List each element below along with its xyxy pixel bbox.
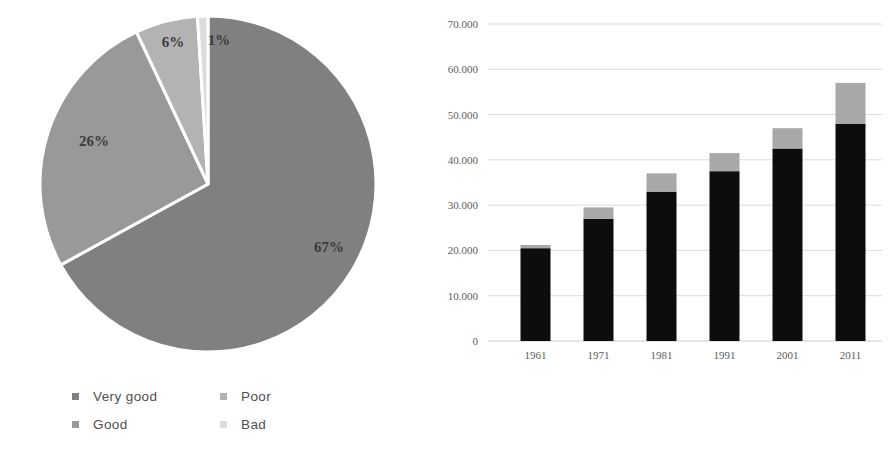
x-tick-label: 2011 (840, 349, 862, 361)
bar-segment-empty[interactable] (836, 124, 866, 341)
x-tick-label: 1971 (588, 349, 610, 361)
y-tick-label: 30.000 (448, 199, 479, 211)
bar-segment-empty[interactable] (710, 171, 740, 341)
bar-series-group (521, 83, 866, 341)
pie-legend: Very good Poor Good Bad (72, 390, 368, 431)
legend-label-poor: Poor (241, 390, 271, 404)
bar-segment-occupied[interactable] (773, 128, 803, 148)
legend-label-bad: Bad (241, 418, 266, 432)
bar-segment-occupied[interactable] (521, 245, 551, 248)
legend-item-very-good[interactable]: Very good (72, 390, 220, 404)
bar-x-axis-ticks: 196119711981199120012011 (525, 349, 862, 361)
pie-label-poor: 6% (162, 34, 185, 50)
figure-container: 67% 26% 6% 1% Very good Poor Good (0, 0, 896, 475)
y-tick-label: 10.000 (448, 290, 479, 302)
pie-chart-plot: 67% 26% 6% 1% (36, 12, 381, 357)
legend-label-very-good: Very good (93, 390, 157, 404)
x-tick-label: 2001 (777, 349, 799, 361)
pie-chart-panel: 67% 26% 6% 1% Very good Poor Good (0, 0, 430, 475)
x-tick-label: 1961 (525, 349, 547, 361)
bar-svg: 010.00020.00030.00040.00050.00060.00070.… (430, 0, 896, 380)
x-tick-label: 1981 (651, 349, 673, 361)
pie-label-very-good: 67% (314, 239, 344, 255)
y-tick-label: 60.000 (448, 63, 479, 75)
legend-item-good[interactable]: Good (72, 418, 220, 432)
legend-swatch-icon (72, 393, 79, 400)
legend-label-good: Good (93, 418, 128, 432)
y-tick-label: 20.000 (448, 244, 479, 256)
legend-swatch-icon (72, 421, 79, 428)
bar-segment-occupied[interactable] (836, 83, 866, 124)
y-tick-label: 40.000 (448, 154, 479, 166)
pie-svg: 67% 26% 6% 1% (36, 12, 381, 357)
pie-label-good: 26% (79, 133, 109, 149)
y-tick-label: 50.000 (448, 109, 479, 121)
y-tick-label: 70.000 (448, 18, 479, 30)
y-tick-label: 0 (473, 335, 479, 347)
bar-chart-panel: 010.00020.00030.00040.00050.00060.00070.… (430, 0, 896, 475)
x-tick-label: 1991 (714, 349, 736, 361)
bar-segment-occupied[interactable] (584, 207, 614, 218)
bar-segment-occupied[interactable] (647, 173, 677, 191)
bar-y-axis-ticks: 010.00020.00030.00040.00050.00060.00070.… (448, 18, 479, 347)
bar-segment-empty[interactable] (521, 248, 551, 341)
bar-segment-empty[interactable] (773, 149, 803, 342)
bar-segment-empty[interactable] (647, 192, 677, 341)
bar-segment-occupied[interactable] (710, 153, 740, 171)
pie-label-bad: 1% (208, 32, 231, 48)
legend-swatch-icon (220, 393, 227, 400)
bar-segment-empty[interactable] (584, 219, 614, 341)
pie-slices (40, 16, 376, 352)
legend-swatch-icon (220, 421, 227, 428)
legend-item-poor[interactable]: Poor (220, 390, 368, 404)
legend-item-bad[interactable]: Bad (220, 418, 368, 432)
